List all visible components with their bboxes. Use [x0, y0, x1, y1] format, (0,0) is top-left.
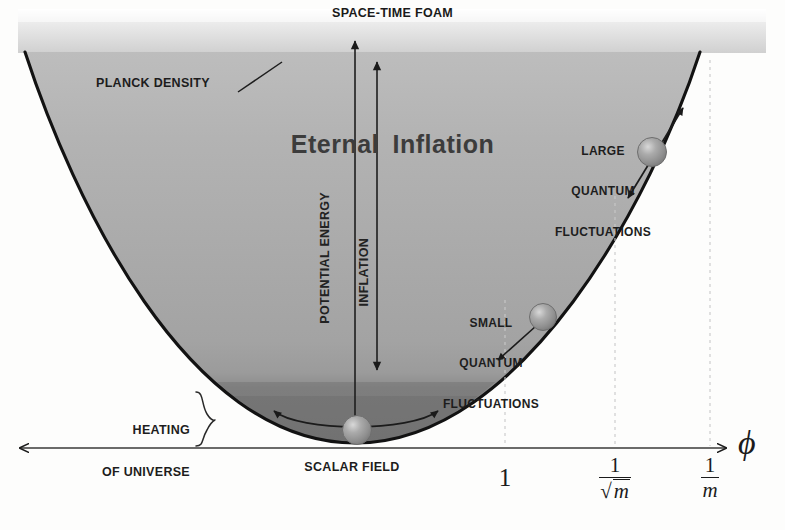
small-fluctuations-line-2: QUANTUM — [432, 357, 550, 370]
fraction-numerator: 1 — [699, 456, 720, 476]
heating-line-1: HEATING — [62, 423, 190, 437]
fraction-inverse-m: 1 m — [699, 456, 720, 501]
axis-tick-inverse-m: 1 m — [678, 456, 742, 501]
space-time-foam-label: SPACE-TIME FOAM — [0, 6, 785, 20]
inflation-axis-label: INFLATION — [357, 238, 371, 306]
axis-tick-inverse-sqrt-m: 1 √m — [580, 456, 650, 502]
radicand: m — [613, 479, 630, 502]
fraction-denominator: m — [699, 479, 720, 501]
eternal-inflation-title: Eternal Inflation — [0, 130, 785, 158]
heating-of-universe-label: HEATING OF UNIVERSE — [62, 395, 190, 507]
small-quantum-fluctuations-label: SMALL QUANTUM FLUCTUATIONS — [432, 290, 550, 438]
radical-sign: √ — [600, 479, 612, 503]
small-fluctuations-line-1: SMALL — [432, 317, 550, 330]
heating-line-2: OF UNIVERSE — [62, 465, 190, 479]
large-quantum-fluctuations-label: LARGE QUANTUM FLUCTUATIONS — [548, 118, 658, 266]
potential-well-fill — [0, 52, 785, 452]
large-fluctuations-line-2: QUANTUM — [548, 185, 658, 198]
axis-tick-one: 1 — [475, 465, 535, 490]
fraction-numerator: 1 — [597, 456, 633, 476]
fraction-bar — [599, 477, 631, 478]
fraction-denominator: √m — [597, 479, 633, 502]
fraction-inverse-sqrt-m: 1 √m — [597, 456, 633, 502]
large-fluctuations-line-3: FLUCTUATIONS — [548, 226, 658, 239]
oscillating-ball — [343, 416, 372, 445]
phi-axis-symbol: ϕ — [738, 424, 756, 462]
planck-density-label: PLANCK DENSITY — [96, 76, 210, 90]
scalar-field-caption: SCALAR FIELD — [262, 460, 442, 474]
small-fluctuations-line-3: FLUCTUATIONS — [432, 398, 550, 411]
figure-canvas: SPACE-TIME FOAM PLANCK DENSITY Eternal I… — [0, 0, 785, 530]
large-fluctuations-line-1: LARGE — [548, 145, 658, 158]
heating-brace — [196, 392, 215, 446]
potential-energy-axis-label: POTENTIAL ENERGY — [318, 192, 332, 324]
